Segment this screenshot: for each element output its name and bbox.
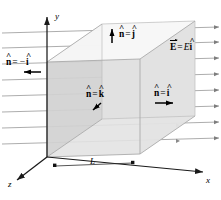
k-hat-symbol: ^k bbox=[99, 90, 104, 100]
dimension-L-tick-left bbox=[53, 164, 56, 167]
equals-sign: = bbox=[124, 29, 131, 39]
dimension-L-label: L bbox=[90, 157, 95, 166]
x-axis-line bbox=[47, 157, 203, 172]
dimension-L-tick-right bbox=[131, 161, 134, 164]
equals-sign: = bbox=[91, 89, 98, 99]
y-axis-label: y bbox=[55, 12, 59, 21]
normal-front-label: ^n=^k bbox=[86, 90, 104, 100]
minus-sign: − bbox=[19, 57, 26, 67]
field-vector-label: E=E^i bbox=[170, 43, 192, 53]
x-axis-label: x bbox=[206, 176, 210, 185]
vector-arrow-overbar bbox=[170, 40, 178, 41]
cube-front-face bbox=[47, 59, 140, 157]
j-hat-symbol: ^j bbox=[132, 30, 135, 40]
z-axis-line bbox=[17, 157, 47, 180]
normal-top-label: ^n=^j bbox=[119, 30, 135, 40]
n-hat-symbol: ^n bbox=[154, 89, 159, 99]
i-hat-symbol: ^i bbox=[167, 89, 170, 99]
i-hat-symbol: ^i bbox=[26, 58, 29, 68]
equals-sign: = bbox=[159, 88, 166, 98]
normal-left-label: ^n=−^i bbox=[6, 58, 29, 68]
normal-right-label: ^n=^i bbox=[154, 89, 169, 99]
equals-sign: = bbox=[11, 57, 18, 67]
i-hat-symbol: ^i bbox=[190, 43, 193, 53]
n-hat-symbol: ^n bbox=[119, 30, 124, 40]
E-vector-symbol: E bbox=[170, 43, 176, 53]
n-hat-symbol: ^n bbox=[86, 90, 91, 100]
diagram-canvas bbox=[0, 0, 221, 200]
n-hat-symbol: ^n bbox=[6, 58, 11, 68]
electric-flux-cube-figure: y x z ^n=^j ^n=−^i ^n=^k ^n=^i E=E^i L bbox=[0, 0, 221, 200]
equals-sign: = bbox=[176, 42, 183, 52]
z-axis-label: z bbox=[8, 180, 12, 189]
